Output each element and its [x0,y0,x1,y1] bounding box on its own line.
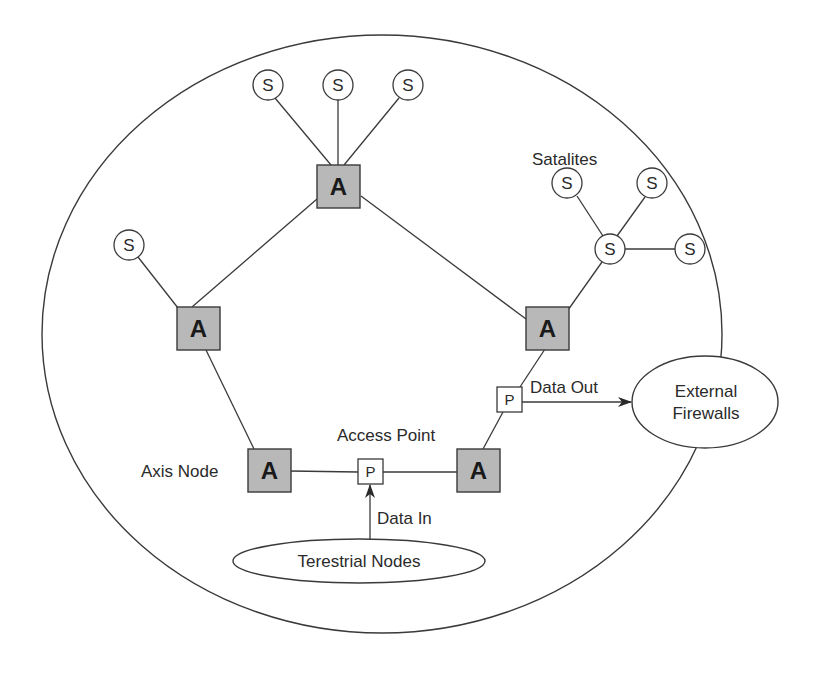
satellite-label: S [262,76,273,95]
axis-node-label: A [470,457,487,484]
satellite-label: S [332,76,343,95]
axis-node-label: A [190,315,207,342]
satellite-hub[interactable]: S [595,234,625,264]
access-point-label: P [504,391,514,408]
axis-node-label: A [261,457,278,484]
satellite-left[interactable]: S [114,230,144,260]
edge-s-hub-s-cluster-1 [577,196,603,236]
edge-a-top-a-left [192,199,317,307]
satellite-label: S [604,240,615,259]
satellite-top-1[interactable]: S [253,70,283,100]
edge-s-hub-s-cluster-2 [617,197,645,236]
edge-s-top-1-a-top [275,98,331,165]
edge-a-top-a-right [361,196,526,319]
axis-node-label-caption: Axis Node [141,462,218,481]
access-point-label: P [365,463,375,480]
satellite-label: S [402,76,413,95]
external-firewalls[interactable]: External Firewalls [632,356,778,448]
satellite-cluster-1[interactable]: S [552,168,582,198]
satellite-top-2[interactable]: S [323,70,353,100]
axis-node-label: A [539,315,556,342]
edge-a-right-s-hub [568,262,602,310]
external-firewalls-label-line2: Firewalls [672,404,739,423]
terrestrial-nodes[interactable]: Terestrial Nodes [233,539,485,583]
satellite-cluster-2[interactable]: S [637,168,667,198]
access-point-in[interactable]: P [358,459,383,484]
edge-a-bottom-right-p-out [483,412,503,449]
satellite-label: S [123,236,134,255]
edge-s-top-3-a-top [344,98,399,165]
satellites-label: Satalites [532,150,597,169]
axis-node-top[interactable]: A [317,165,360,208]
network-diagram: A A A A A S S S S S S S [0,0,815,675]
edge-s-left-a-left [138,257,178,308]
data-in-label: Data In [377,509,432,528]
data-out-label: Data Out [530,378,598,397]
axis-node-bottom-right[interactable]: A [457,449,500,492]
edge-a-left-a-bottom-left [206,350,254,449]
external-firewalls-label-line1: External [675,382,737,401]
satellite-label: S [646,174,657,193]
satellite-cluster-3[interactable]: S [675,234,705,264]
axis-node-left[interactable]: A [177,307,220,350]
satellite-label: S [684,240,695,259]
axis-node-bottom-left[interactable]: A [248,449,291,492]
terrestrial-nodes-label: Terestrial Nodes [298,552,421,571]
edge-a-bottom-left-p-in [290,471,358,472]
access-point-caption: Access Point [337,426,436,445]
satellite-top-3[interactable]: S [393,70,423,100]
access-point-out[interactable]: P [497,387,522,412]
axis-node-right[interactable]: A [526,307,569,350]
axis-node-label: A [330,173,347,200]
satellite-label: S [561,174,572,193]
